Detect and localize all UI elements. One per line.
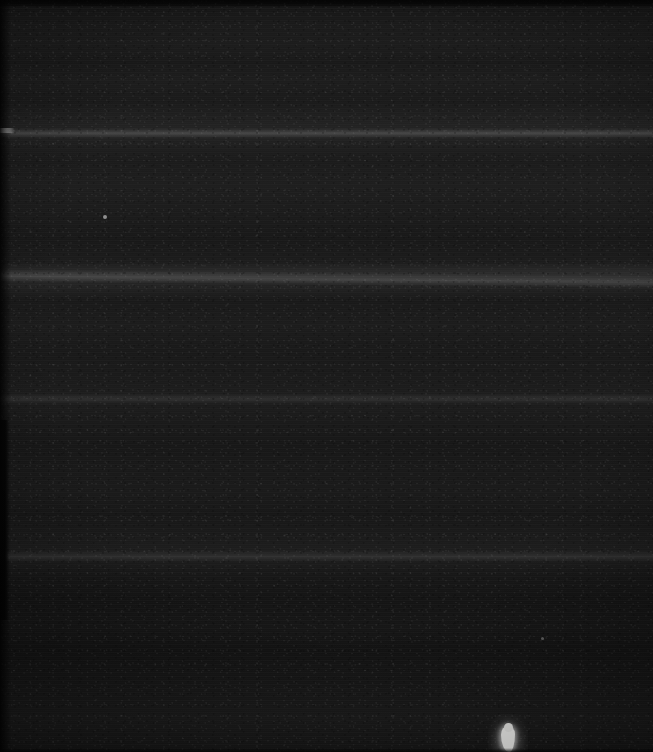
frame-edge-top: [0, 0, 653, 6]
sensor-grain-dark: [0, 0, 653, 752]
frame-edge-bottom: [0, 748, 653, 752]
astronomical-image-canvas: Very dark wide-field raw spacecraft imag…: [0, 0, 653, 752]
frame-edge-left-lower: [0, 420, 9, 620]
frame-edge-left: [0, 0, 11, 752]
